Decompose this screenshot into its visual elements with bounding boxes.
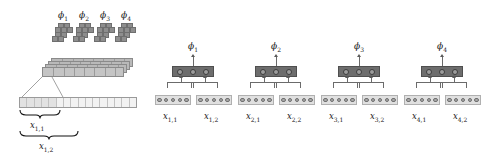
input-node xyxy=(267,98,271,102)
unit-3-node xyxy=(356,69,362,75)
input-group-x21-sub: 2,1 xyxy=(251,116,261,123)
brace-x11 xyxy=(19,110,61,119)
unit-2-branch-bar xyxy=(250,82,277,83)
input-node xyxy=(157,98,161,102)
input-node xyxy=(171,98,175,102)
unit-3-branch-bar xyxy=(357,82,384,83)
unit-4-branch-leg xyxy=(440,82,441,88)
brace-x12 xyxy=(19,131,79,140)
input-group-x12-sub: 1,2 xyxy=(209,116,219,123)
input-tape-cell xyxy=(130,98,136,107)
unit-1-branch-leg xyxy=(191,82,192,88)
input-group-x22-sub: 2,2 xyxy=(292,116,302,123)
input-node xyxy=(330,98,334,102)
input-group-x11-sub: 1,1 xyxy=(168,116,178,123)
unit-1-phi-sub: 1 xyxy=(194,46,198,53)
input-node xyxy=(468,98,472,102)
input-node xyxy=(391,98,395,102)
unit-4-branch-leg xyxy=(442,82,443,88)
input-node xyxy=(254,98,258,102)
input-node xyxy=(205,98,209,102)
input-group-x22 xyxy=(279,95,315,105)
feature-map-slab xyxy=(42,67,124,77)
unit-1-output-arrow-icon xyxy=(191,54,195,57)
unit-1-node xyxy=(190,69,196,75)
input-group-x41 xyxy=(404,95,440,105)
unit-2-branch-leg xyxy=(250,82,251,88)
unit-4-node xyxy=(452,69,458,75)
unit-2-branch-arrow-icon xyxy=(262,75,266,78)
filter-cell xyxy=(67,27,73,33)
input-tape-cell xyxy=(93,98,100,107)
input-node xyxy=(364,98,368,102)
input-node xyxy=(225,98,229,102)
unit-2-node xyxy=(286,69,292,75)
input-node xyxy=(385,98,389,102)
unit-3-output-wire xyxy=(359,56,360,66)
unit-2-output-wire xyxy=(276,56,277,66)
brace-x12-sub: 1,2 xyxy=(44,146,54,153)
input-group-x21 xyxy=(238,95,274,105)
input-node xyxy=(308,98,312,102)
filter-cell xyxy=(121,36,127,42)
input-node xyxy=(212,98,216,102)
unit-3-branch-bar xyxy=(333,82,360,83)
filter-cell xyxy=(100,36,106,42)
filter-label-1: ϕ1 xyxy=(58,11,68,22)
unit-2-branch-leg xyxy=(274,82,275,88)
unit-2-branch-leg xyxy=(276,82,277,88)
input-node xyxy=(247,98,251,102)
input-group-x21-label: x2,1 xyxy=(246,112,260,123)
input-node xyxy=(454,98,458,102)
unit-3-phi-sub: 3 xyxy=(360,46,364,53)
input-group-x31-label: x3,1 xyxy=(329,112,343,123)
input-tape-cell xyxy=(35,98,42,107)
input-node xyxy=(427,98,431,102)
unit-4-branch-leg xyxy=(416,82,417,88)
filter-cell xyxy=(58,36,64,42)
unit-3-branch-leg xyxy=(333,82,334,88)
unit-3-phi-label: ϕ3 xyxy=(354,42,364,53)
input-tape-cell xyxy=(86,98,93,107)
input-group-x22-label: x2,2 xyxy=(287,112,301,123)
brace-x12-label: x1,2 xyxy=(39,142,53,153)
unit-2-phi-label: ϕ2 xyxy=(271,42,281,53)
unit-3-node xyxy=(369,69,375,75)
input-group-x11 xyxy=(155,95,191,105)
input-group-x41-label: x4,1 xyxy=(412,112,426,123)
filter-stack-4 xyxy=(118,23,140,43)
unit-4-branch-bar xyxy=(416,82,443,83)
filter-label-2-index: 2 xyxy=(85,15,89,22)
input-node xyxy=(198,98,202,102)
unit-2-node xyxy=(273,69,279,75)
input-tape-cell xyxy=(57,98,64,107)
unit-4-output-arrow-icon xyxy=(440,54,444,57)
unit-1-branch-leg xyxy=(167,82,168,88)
input-group-x31 xyxy=(321,95,357,105)
unit-4-branch-arrow-icon xyxy=(452,75,456,78)
unit-3-branch-arrow-icon xyxy=(369,75,373,78)
unit-4-branch-leg xyxy=(466,82,467,88)
input-node xyxy=(184,98,188,102)
input-group-x32-label: x3,2 xyxy=(370,112,384,123)
figure-canvas: ϕ1 ϕ2 ϕ3 ϕ4 xyxy=(0,0,488,156)
unit-1-branch-bar xyxy=(167,82,194,83)
unit-3-branch-leg xyxy=(357,82,358,88)
input-group-x42-label: x4,2 xyxy=(453,112,467,123)
input-group-x42 xyxy=(445,95,481,105)
input-node xyxy=(302,98,306,102)
input-tape-cell xyxy=(122,98,129,107)
unit-2-node xyxy=(260,69,266,75)
input-tape-cell xyxy=(71,98,78,107)
input-tape-cell xyxy=(108,98,115,107)
unit-1-branch-arrow-icon xyxy=(179,75,183,78)
filter-label-3-index: 3 xyxy=(106,15,110,22)
unit-4-node xyxy=(439,69,445,75)
unit-1-branch-arrow-icon xyxy=(203,75,207,78)
filter-cell xyxy=(79,36,85,42)
unit-4-branch-bar xyxy=(440,82,467,83)
unit-2-phi-sub: 2 xyxy=(277,46,281,53)
input-node xyxy=(240,98,244,102)
unit-1-node xyxy=(203,69,209,75)
input-node xyxy=(461,98,465,102)
